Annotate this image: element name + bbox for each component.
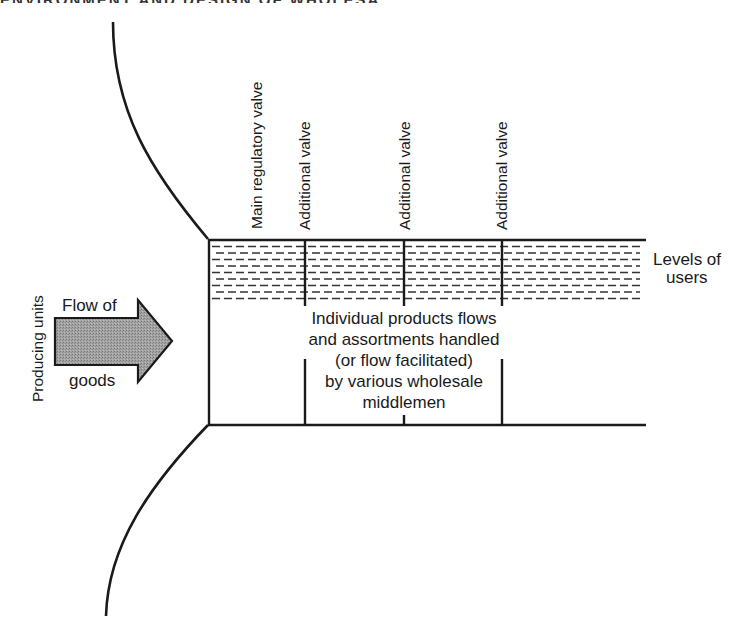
levels-of-users-label-line1: Levels of bbox=[653, 251, 721, 268]
description-line: and assortments handled bbox=[270, 329, 538, 350]
levels-of-users-hatching bbox=[212, 247, 640, 299]
description-line: by various wholesale bbox=[270, 371, 538, 392]
main-regulatory-valve-label: Main regulatory valve bbox=[249, 82, 265, 229]
additional-valve-label-3: Additional valve bbox=[494, 121, 510, 230]
wholesale-middlemen-description: Individual products flows and assortment… bbox=[270, 308, 538, 413]
producing-units-label: Producing units bbox=[30, 295, 46, 402]
description-line: (or flow facilitated) bbox=[270, 350, 538, 371]
additional-valve-label-2: Additional valve bbox=[397, 121, 413, 230]
levels-of-users-label-line2: users bbox=[666, 269, 708, 286]
arrow-label-goods: goods bbox=[69, 372, 115, 389]
description-line: middlemen bbox=[270, 392, 538, 413]
funnel-bottom-curve bbox=[106, 425, 208, 616]
additional-valve-label-1: Additional valve bbox=[297, 121, 313, 230]
arrow-label-flow-of: Flow of bbox=[62, 297, 117, 314]
description-line: Individual products flows bbox=[270, 308, 538, 329]
funnel-top-curve bbox=[113, 22, 208, 239]
